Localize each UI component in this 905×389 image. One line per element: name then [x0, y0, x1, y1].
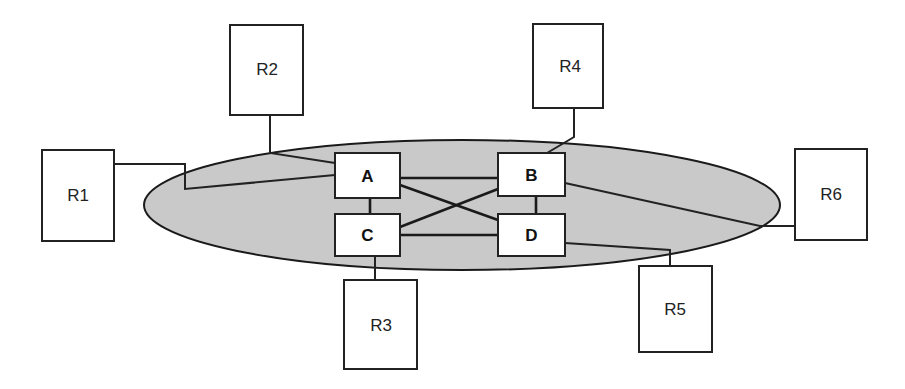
edge-node-label: R1	[67, 186, 89, 205]
core-node-c: C	[335, 214, 400, 256]
core-node-label: D	[525, 226, 537, 245]
core-node-d: D	[498, 214, 565, 256]
network-diagram: A B C D R1 R2 R3 R4 R5 R6	[0, 0, 905, 389]
edge-node-label: R6	[820, 185, 842, 204]
edge-node-r4: R4	[533, 24, 603, 108]
edge-node-label: R3	[370, 316, 392, 335]
edge-node-r6: R6	[795, 149, 867, 240]
edge-node-label: R4	[559, 57, 581, 76]
core-node-b: B	[498, 153, 565, 196]
network-cloud	[144, 140, 780, 270]
core-node-label: C	[361, 226, 373, 245]
edge-node-r5: R5	[639, 266, 712, 352]
edge-node-label: R2	[256, 60, 278, 79]
edge-node-r3: R3	[344, 280, 417, 369]
core-node-label: A	[361, 167, 373, 186]
edge-node-r1: R1	[42, 150, 114, 241]
core-node-label: B	[525, 166, 537, 185]
core-node-a: A	[335, 153, 400, 198]
edge-node-r2: R2	[230, 25, 303, 115]
edge-node-label: R5	[664, 300, 686, 319]
